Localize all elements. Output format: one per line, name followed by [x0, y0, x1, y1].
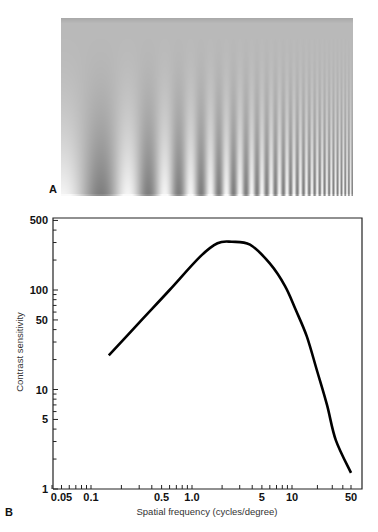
x-tick-label: 1.0	[184, 491, 199, 503]
x-tick-label: 0.1	[83, 491, 98, 503]
x-axis-ticks: 0.050.10.51.051050	[51, 485, 357, 503]
y-tick-label: 50	[36, 314, 48, 326]
x-axis-label: Spatial frequency (cycles/degree)	[137, 506, 278, 517]
panel-a-grating: A	[0, 0, 378, 200]
plot-frame	[53, 218, 362, 489]
csf-curve	[109, 241, 351, 472]
x-tick-label: 5	[259, 491, 265, 503]
y-tick-label: 1	[42, 483, 48, 495]
y-tick-label: 5	[42, 413, 48, 425]
x-tick-label: 50	[345, 491, 357, 503]
y-tick-label: 10	[36, 384, 48, 396]
y-tick-label: 100	[30, 284, 48, 296]
contrast-sensitivity-grating	[61, 18, 353, 196]
y-tick-label: 500	[30, 214, 48, 226]
csf-chart: 151050100500 0.050.10.51.051050 Contrast…	[0, 200, 378, 532]
x-tick-label: 0.5	[154, 491, 169, 503]
y-axis-label: Contrast sensitivity	[14, 312, 25, 392]
x-tick-label: 10	[286, 491, 298, 503]
panel-b-chart: 151050100500 0.050.10.51.051050 Contrast…	[0, 200, 378, 532]
y-axis-ticks: 151050100500	[30, 214, 58, 495]
panel-a-label: A	[49, 183, 57, 195]
x-tick-label: 0.05	[51, 491, 72, 503]
panel-b-label: B	[5, 506, 13, 518]
